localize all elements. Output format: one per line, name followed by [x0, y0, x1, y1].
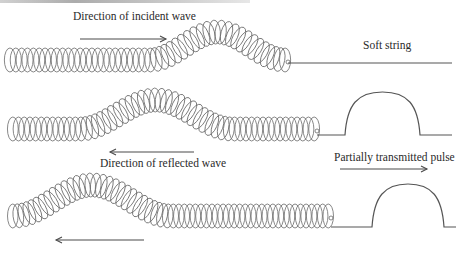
- spring-coil: [7, 88, 319, 142]
- incident-wave-label: Direction of incident wave: [73, 11, 196, 23]
- soft-string-label: Soft string: [363, 40, 411, 52]
- joint-knot: [315, 129, 319, 133]
- arrow-right-icon: [340, 166, 427, 172]
- arrow-left-icon: [56, 237, 144, 243]
- spring-coil: [8, 173, 334, 229]
- soft-string-with-pulse: [331, 184, 456, 227]
- joint-knot: [329, 216, 333, 220]
- panel-after-reflection: [8, 173, 456, 243]
- reflected-wave-label: Direction of reflected wave: [100, 158, 226, 170]
- spring-coil: [4, 20, 290, 73]
- arrow-right-icon: [80, 36, 166, 42]
- soft-string-with-pulse: [317, 92, 452, 135]
- arrow-left-icon: [110, 149, 194, 155]
- transmitted-pulse-label: Partially transmitted pulse: [334, 152, 455, 164]
